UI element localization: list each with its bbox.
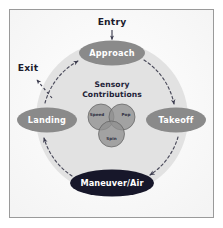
sensory-title-line2: Contributions — [82, 90, 142, 99]
sensory-title-line1: Sensory — [94, 80, 129, 89]
venn-label-speed: Speed — [90, 112, 105, 117]
node-landing-label: Landing — [28, 115, 66, 125]
venn-label-spin: Spin — [106, 136, 116, 141]
venn-label-pop: Pop — [122, 112, 131, 117]
node-approach-label: Approach — [89, 48, 135, 58]
entry-label: Entry — [98, 16, 127, 27]
node-maneuver-air[interactable]: Maneuver/Air — [70, 170, 154, 197]
exit-label: Exit — [18, 62, 39, 73]
node-approach[interactable]: Approach — [79, 41, 145, 66]
node-takeoff[interactable]: Takeoff — [146, 108, 206, 133]
node-takeoff-label: Takeoff — [159, 115, 194, 125]
venn-circle-spin[interactable] — [99, 121, 125, 147]
node-landing[interactable]: Landing — [17, 108, 77, 133]
figure-root: Entry Exit Approach Takeoff Maneuver/Air… — [0, 0, 223, 228]
node-maneuver-air-label: Maneuver/Air — [80, 178, 144, 188]
flight-cycle-diagram: Entry Exit Approach Takeoff Maneuver/Air… — [0, 0, 223, 228]
